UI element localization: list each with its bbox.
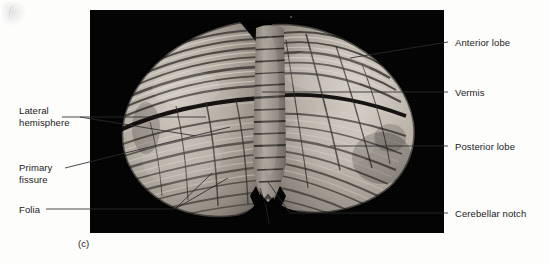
photo-dust-speck — [290, 16, 292, 18]
label-posterior-lobe: Posterior lobe — [455, 141, 515, 153]
label-cerebellar-notch: Cerebellar notch — [455, 208, 526, 220]
cerebellum-specimen-image — [90, 10, 444, 233]
figure-caption: (c) — [78, 238, 89, 249]
label-vermis: Vermis — [455, 87, 485, 99]
figure-page: Lateral hemisphere Primary fissure Folia… — [0, 0, 550, 263]
scan-artifact — [2, 2, 28, 28]
cerebellum-photograph — [90, 10, 444, 233]
label-primary-fissure: Primary fissure — [19, 162, 52, 185]
label-lateral-hemisphere: Lateral hemisphere — [19, 105, 70, 128]
label-folia: Folia — [19, 204, 40, 216]
label-anterior-lobe: Anterior lobe — [455, 37, 510, 49]
